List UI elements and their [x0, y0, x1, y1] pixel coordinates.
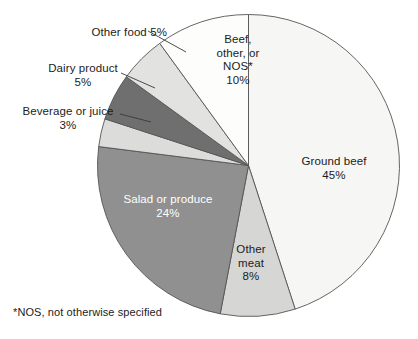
- pie-chart-figure: Ground beef 45% Other meat 8% Salad or p…: [0, 0, 418, 339]
- slice-label-other-food: Other food 5%: [72, 26, 167, 40]
- slice-label-salad-or-produce: Salad or produce 24%: [104, 193, 232, 220]
- slice-label-beverage-or-juice: Beverage or juice 3%: [12, 105, 124, 132]
- chart-footnote: *NOS, not otherwise specified: [13, 306, 162, 319]
- slice-label-ground-beef: Ground beef 45%: [286, 155, 382, 182]
- slice-label-dairy-product: Dairy product 5%: [40, 62, 126, 89]
- slice-label-beef-other-or-nos: Beef, other, or NOS* 10%: [203, 33, 273, 87]
- slice-label-other-meat: Other meat 8%: [222, 243, 280, 284]
